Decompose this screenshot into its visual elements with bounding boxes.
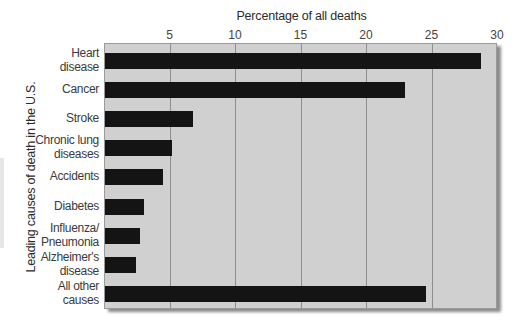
- x-tick-label: 5: [166, 28, 173, 42]
- bar: [105, 257, 136, 273]
- category-label: Accidents: [50, 169, 99, 183]
- plot-area: [104, 43, 497, 309]
- bar: [105, 286, 426, 302]
- x-tick-label: 25: [425, 28, 438, 42]
- category-label: Stroke: [66, 111, 99, 125]
- category-label: Influenza/ Pneumonia: [41, 221, 99, 249]
- category-label: Cancer: [62, 82, 99, 96]
- category-label: Heart disease: [60, 46, 99, 74]
- left-edge-strip: [0, 158, 4, 248]
- bar: [105, 228, 140, 244]
- category-label: Diabetes: [54, 199, 99, 213]
- bar: [105, 111, 193, 127]
- bar: [105, 140, 172, 156]
- bar: [105, 199, 144, 215]
- bar: [105, 169, 163, 185]
- x-tick-label: 15: [294, 28, 307, 42]
- category-label: Chronic lung diseases: [35, 133, 99, 161]
- x-tick-label: 20: [359, 28, 372, 42]
- x-axis-title: Percentage of all deaths: [105, 9, 498, 23]
- x-tick-label: 10: [228, 28, 241, 42]
- category-label: All other causes: [58, 279, 99, 307]
- gridline: [432, 44, 433, 308]
- bar: [105, 82, 405, 98]
- bar: [105, 53, 481, 69]
- category-label: Alzheimer's disease: [41, 250, 99, 278]
- x-tick-label: 30: [490, 28, 503, 42]
- y-axis-title: Leading causes of death in the U.S.: [24, 81, 38, 272]
